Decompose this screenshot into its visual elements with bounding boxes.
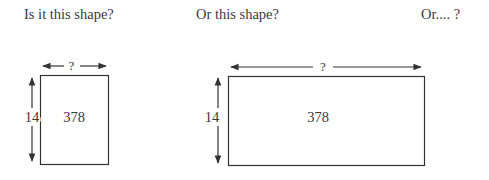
height-label: 14 — [205, 109, 220, 125]
area-label: 378 — [307, 109, 329, 125]
shape-wide: ? 14 378 — [205, 59, 425, 166]
area-label: 378 — [63, 109, 85, 125]
height-label: 14 — [25, 109, 40, 125]
diagram: ? 14 378 ? 14 378 — [0, 0, 489, 180]
width-label: ? — [69, 58, 75, 73]
shape-tall: ? 14 378 — [25, 58, 109, 165]
width-label: ? — [320, 59, 326, 74]
